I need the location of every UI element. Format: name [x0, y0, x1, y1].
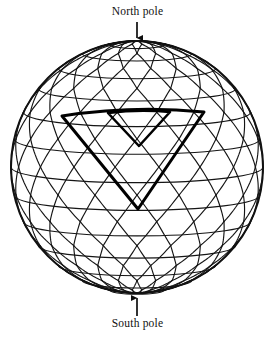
geodesic-sphere-figure — [0, 0, 275, 337]
highlighted-triangle — [62, 109, 204, 209]
